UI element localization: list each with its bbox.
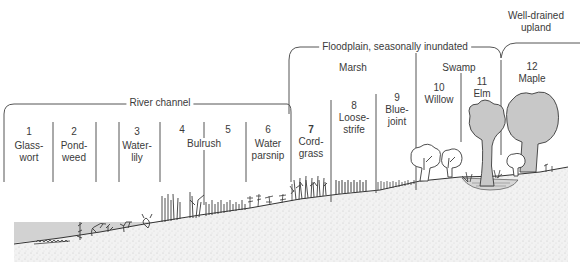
plant-11-name-line1: Elm <box>473 88 490 100</box>
plant-6-name-line1: Water <box>255 138 281 150</box>
plant-12-name-line1: Maple <box>518 73 545 85</box>
plant-9-name-line2: joint <box>388 116 406 128</box>
plant-7-number: 7 <box>308 124 314 136</box>
upland-shrub <box>507 153 525 176</box>
plant-7-name-line1: Cord- <box>298 136 323 148</box>
plant-6-name-line2: parsnip <box>252 150 285 162</box>
subzone-marsh-label: Marsh <box>339 62 367 74</box>
plant-8-name-line1: Loose- <box>339 112 370 124</box>
plant-2-name-line2: weed <box>62 152 86 164</box>
plant-8-number: 8 <box>351 100 357 112</box>
subzone-swamp-label: Swamp <box>442 62 475 74</box>
willow-trees <box>411 144 462 181</box>
plant-3-name-line1: Water- <box>122 140 152 152</box>
zone-floodplain-label: Floodplain, seasonally inundated <box>319 41 471 53</box>
plant-7-name-line2: grass <box>299 148 323 160</box>
plant-4-number: 4 <box>179 124 185 136</box>
plant-6-number: 6 <box>265 124 271 136</box>
plant-2-name-line1: Pond- <box>61 140 88 152</box>
plant-10-number: 10 <box>433 82 444 94</box>
zonation-diagram: River channel Floodplain, seasonally inu… <box>0 0 587 276</box>
plant-1-number: 1 <box>26 126 32 138</box>
diagram-graphics <box>0 0 587 276</box>
plant-1-name-line1: Glass- <box>15 140 44 152</box>
plant-1-name-line2: wort <box>20 152 39 164</box>
plant-3-name-line2: lily <box>131 152 143 164</box>
zone-river-channel-label: River channel <box>126 97 193 109</box>
plant-12-number: 12 <box>526 61 537 73</box>
plant-2-number: 2 <box>71 126 77 138</box>
plant-4-5-name: Bulrush <box>186 138 222 150</box>
plant-10-name-line1: Willow <box>425 94 454 106</box>
plant-9-number: 9 <box>394 92 400 104</box>
upland-bracket <box>501 43 580 58</box>
plant-9-name-line1: Blue- <box>385 104 408 116</box>
river-channel-bracket <box>4 104 291 205</box>
plant-3-number: 3 <box>134 126 140 138</box>
zone-upland-label-line1: Well-drained <box>508 10 564 22</box>
zone-upland-label-line2: upland <box>521 22 551 34</box>
plant-8-name-line2: strife <box>343 124 365 136</box>
plant-11-number: 11 <box>477 76 487 88</box>
plant-5-number: 5 <box>225 124 231 136</box>
elm-tree <box>469 100 505 186</box>
